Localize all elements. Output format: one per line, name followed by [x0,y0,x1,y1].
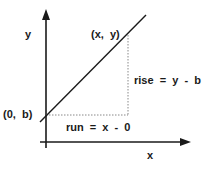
run-annotation: run = x - 0 [66,121,131,133]
intercept-label: (0, b) [3,108,33,120]
y-axis-arrow-icon [42,9,50,20]
end-point-label: (x, y) [91,28,120,40]
x-axis-arrow-icon [180,138,191,146]
x-axis-label: x [147,149,154,161]
slope-diagram: y x (x, y) (0, b) rise = y - b run = x -… [0,0,207,169]
rise-annotation: rise = y - b [134,74,201,86]
y-axis-label: y [25,28,32,40]
